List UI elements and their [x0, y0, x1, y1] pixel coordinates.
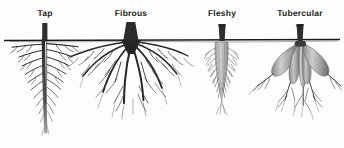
label-fleshy: Fleshy: [208, 8, 236, 18]
root-types-diagram: Tap Fibrous Fleshy Tubercular: [0, 0, 344, 148]
label-tap: Tap: [37, 8, 52, 18]
label-fibrous: Fibrous: [115, 8, 148, 18]
tap-stem: [42, 23, 47, 40]
diagram-canvas: [0, 0, 344, 148]
label-tubercular: Tubercular: [277, 8, 322, 18]
